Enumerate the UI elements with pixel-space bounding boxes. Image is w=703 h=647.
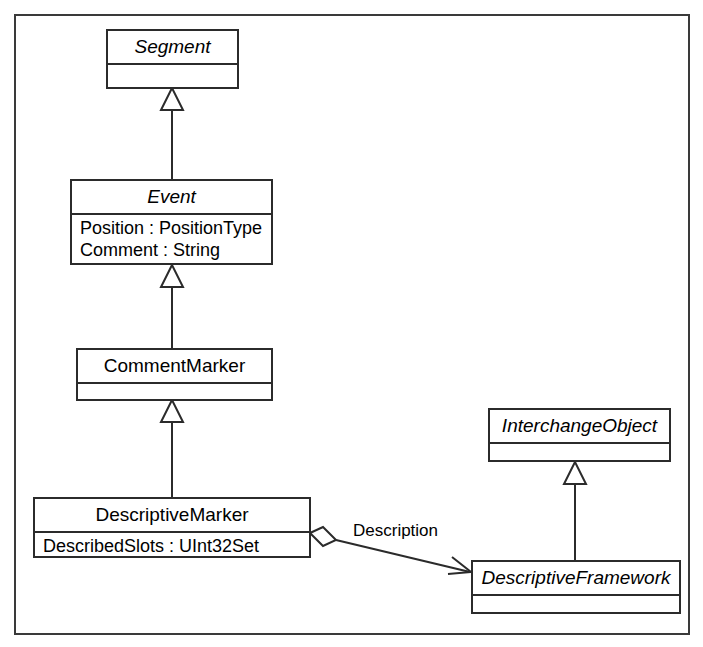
class-name-segment: Segment [108, 31, 237, 63]
class-box-descriptivemarker[interactable]: DescriptiveMarker DescribedSlots : UInt3… [33, 497, 311, 558]
class-attributes-descriptivemarker: DescribedSlots : UInt32Set [35, 533, 309, 563]
association-label-description: Description [353, 521, 438, 541]
class-box-descriptiveframework[interactable]: DescriptiveFramework [471, 560, 681, 614]
class-box-event[interactable]: Event Position : PositionType Comment : … [70, 179, 273, 265]
class-box-interchangeobject[interactable]: InterchangeObject [488, 408, 671, 462]
attribute-comment: Comment : String [80, 240, 265, 262]
generalization-line-descriptiveframework-to-interchangeobject [574, 462, 576, 560]
class-name-descriptiveframework: DescriptiveFramework [473, 562, 679, 594]
class-attributes-descriptiveframework [473, 596, 679, 623]
class-attributes-commentmarker [78, 384, 271, 410]
class-name-commentmarker: CommentMarker [78, 350, 271, 382]
generalization-line-descriptivemarker-to-commentmarker [171, 400, 173, 498]
attribute-position: Position : PositionType [80, 218, 265, 240]
generalization-line-event-to-segment [171, 88, 173, 180]
generalization-line-commentmarker-to-event [171, 265, 173, 348]
class-attributes-segment [108, 65, 237, 95]
class-name-descriptivemarker: DescriptiveMarker [35, 499, 309, 531]
class-box-commentmarker[interactable]: CommentMarker [76, 348, 273, 401]
class-attributes-interchangeobject [490, 444, 669, 471]
class-attributes-event: Position : PositionType Comment : String [72, 215, 271, 267]
uml-diagram-canvas: Description Segment Event Position : Pos… [0, 0, 703, 647]
attribute-describedslots: DescribedSlots : UInt32Set [43, 536, 303, 558]
class-name-event: Event [72, 181, 271, 213]
class-box-segment[interactable]: Segment [106, 29, 239, 89]
class-name-interchangeobject: InterchangeObject [490, 410, 669, 442]
